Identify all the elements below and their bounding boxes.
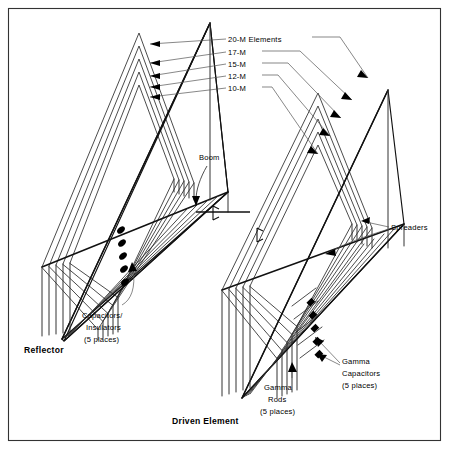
gamma-rods-label-line1: Gamma: [264, 383, 293, 392]
driven-element-label: Driven Element: [172, 416, 239, 426]
boom-label: Boom: [199, 153, 220, 162]
band-label-12m: 12-M: [228, 72, 246, 81]
gamma-rods-label-line3: (5 places): [260, 407, 296, 416]
gamma-rods-label-line2: Rods: [268, 395, 287, 404]
driven-element-assembly: [222, 90, 404, 398]
diagram-canvas: 20-M Elements 17-M 15-M 12-M 10-M Boom S…: [0, 0, 449, 449]
spreaders-label: Spreaders: [391, 223, 428, 232]
driven-rear-loops: [222, 93, 372, 358]
gamma-capacitors-label-line1: Gamma: [342, 357, 371, 366]
reflector-rear-loops: [42, 33, 194, 329]
capacitors-label-line3: (5 places): [84, 335, 120, 344]
band-label-20m: 20-M Elements: [228, 35, 282, 44]
capacitors-label-line2: Insulators: [86, 323, 121, 332]
driven-spreader-verticals: [222, 90, 404, 398]
capacitors-label-line1: Capacitors/: [82, 311, 123, 320]
gamma-capacitors-label-line3: (5 places): [342, 381, 378, 390]
reflector-label: Reflector: [24, 345, 64, 355]
reflector-assembly: [42, 23, 228, 341]
boom-assembly: [196, 206, 263, 242]
quad-antenna-diagram: 20-M Elements 17-M 15-M 12-M 10-M Boom S…: [0, 0, 449, 449]
gamma-capacitors-label-line2: Capacitors: [342, 369, 380, 378]
band-label-10m: 10-M: [228, 84, 246, 93]
driven-main-outline: [222, 90, 404, 398]
band-leaders-driven: [262, 37, 368, 154]
band-label-17m: 17-M: [228, 48, 246, 57]
band-label-15m: 15-M: [228, 60, 246, 69]
